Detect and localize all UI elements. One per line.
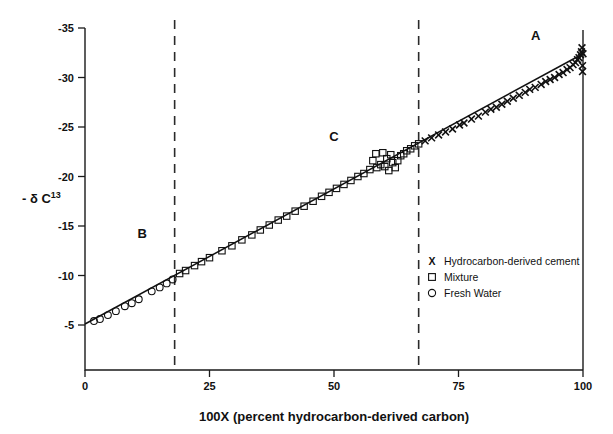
y-axis-title-superscript: 13 bbox=[51, 190, 61, 200]
scatter-plot: 0255075100-5-10-15-20-25-30-35 ABC XHydr… bbox=[0, 0, 613, 434]
y-tick-label: -10 bbox=[58, 270, 74, 282]
x-tick-label: 25 bbox=[203, 380, 215, 392]
region-label-a: A bbox=[531, 28, 541, 43]
chart-figure: 0255075100-5-10-15-20-25-30-35 ABC XHydr… bbox=[0, 0, 613, 434]
region-label-b: B bbox=[138, 226, 147, 241]
legend-label: Hydrocarbon-derived cement bbox=[444, 255, 579, 267]
y-tick-label: -25 bbox=[58, 121, 74, 133]
y-tick-label: -30 bbox=[58, 72, 74, 84]
region-label-c: C bbox=[329, 129, 339, 144]
x-tick-label: 100 bbox=[574, 380, 592, 392]
legend-item-x: XHydrocarbon-derived cement bbox=[428, 255, 579, 267]
y-tick-label: -20 bbox=[58, 171, 74, 183]
y-tick-label: -35 bbox=[58, 22, 74, 34]
x-tick-label: 50 bbox=[328, 380, 340, 392]
legend-label: Mixture bbox=[444, 271, 479, 283]
legend-label: Fresh Water bbox=[444, 287, 502, 299]
x-tick-label: 75 bbox=[452, 380, 464, 392]
plot-background bbox=[0, 0, 613, 434]
x-axis-title: 100X (percent hydrocarbon-derived carbon… bbox=[199, 409, 469, 424]
legend-marker-x-icon: X bbox=[428, 255, 435, 267]
x-tick-label: 0 bbox=[82, 380, 88, 392]
y-tick-label: -15 bbox=[58, 220, 74, 232]
y-axis-title-text: - δ C bbox=[22, 191, 51, 206]
y-tick-label: -5 bbox=[64, 319, 74, 331]
